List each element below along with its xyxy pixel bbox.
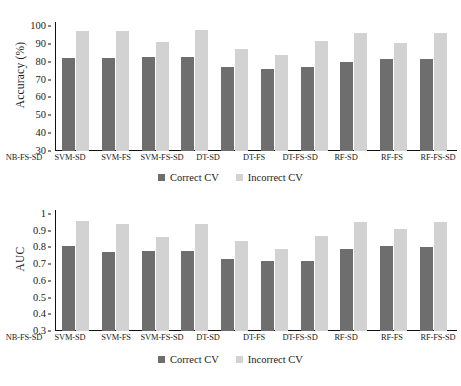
y-tick-label: 0.8 [33, 242, 46, 252]
bar-group [294, 214, 334, 331]
bar-group [215, 26, 255, 151]
bar-group [96, 214, 136, 331]
y-tick-mark [48, 230, 51, 231]
x-tick-label: SVM-FS-SD [139, 153, 185, 163]
legend-swatch-icon [236, 174, 243, 181]
bar-incorrect-cv [116, 31, 129, 151]
bar-group [255, 26, 295, 151]
y-tick-mark [48, 133, 51, 134]
x-tick-label: SVM-FS-SD [139, 333, 185, 343]
y-tick-label: 50 [36, 110, 47, 120]
chart-accuracy: Accuracy (%) 30405060708090100 NB-FS-SDS… [0, 6, 461, 192]
bar-groups-auc [56, 214, 453, 331]
x-tick-label: SVM-FS [93, 153, 139, 163]
x-tick-label: DT-FS [231, 153, 277, 163]
bar-incorrect-cv [354, 33, 367, 151]
x-tick-label: RF-FS [369, 333, 415, 343]
x-tick-label: SVM-SD [47, 333, 93, 343]
y-tick-mark [48, 314, 51, 315]
bar-incorrect-cv [275, 249, 288, 331]
bar-correct-cv [142, 57, 155, 151]
legend-label: Correct CV [170, 354, 219, 365]
bar-group [413, 26, 453, 151]
bar-group [96, 26, 136, 151]
y-tick-label: 80 [36, 57, 47, 67]
bar-incorrect-cv [76, 31, 89, 151]
bar-incorrect-cv [434, 222, 447, 331]
bar-correct-cv [62, 246, 75, 331]
bar-group [255, 214, 295, 331]
bar-correct-cv [181, 251, 194, 331]
y-tick-mark [48, 61, 51, 62]
legend-accuracy: Correct CVIncorrect CV [0, 172, 461, 183]
y-tick-label: 70 [36, 75, 47, 85]
bar-incorrect-cv [195, 224, 208, 331]
x-axis-labels-auc: NB-FS-SDSVM-SDSVM-FSSVM-FS-SDDT-SDDT-FSD… [1, 333, 461, 343]
bar-correct-cv [420, 59, 433, 151]
bar-incorrect-cv [156, 42, 169, 151]
x-tick-label: DT-FS-SD [277, 333, 323, 343]
bar-correct-cv [142, 251, 155, 331]
bar-incorrect-cv [156, 237, 169, 331]
bar-group [294, 26, 334, 151]
y-tick-mark [48, 331, 51, 332]
y-axis-ticks-accuracy: 30405060708090100 [3, 26, 51, 151]
legend-label: Incorrect CV [248, 172, 303, 183]
y-tick-label: 0.4 [33, 309, 46, 319]
bar-correct-cv [301, 67, 314, 151]
bar-group [334, 26, 374, 151]
bar-incorrect-cv [195, 30, 208, 151]
y-tick-label: 0.5 [33, 293, 46, 303]
bar-group [413, 214, 453, 331]
plot-area-accuracy: 30405060708090100 [55, 26, 453, 151]
bar-incorrect-cv [394, 229, 407, 331]
y-tick-mark [48, 97, 51, 98]
bar-incorrect-cv [235, 241, 248, 331]
x-tick-label: DT-FS [231, 333, 277, 343]
bar-incorrect-cv [394, 43, 407, 151]
y-tick-label: 0.9 [33, 226, 46, 236]
y-tick-mark [48, 280, 51, 281]
bar-group [175, 214, 215, 331]
legend-swatch-icon [236, 356, 243, 363]
y-tick-label: 90 [36, 39, 47, 49]
y-tick-mark [48, 214, 51, 215]
y-tick-mark [48, 43, 51, 44]
legend-auc: Correct CVIncorrect CV [0, 354, 461, 365]
bar-incorrect-cv [315, 236, 328, 331]
bar-incorrect-cv [354, 222, 367, 331]
bar-correct-cv [221, 67, 234, 151]
bar-correct-cv [181, 57, 194, 151]
bar-group [135, 214, 175, 331]
legend-swatch-icon [158, 174, 165, 181]
bar-correct-cv [380, 246, 393, 331]
x-tick-label: RF-FS-SD [415, 333, 461, 343]
x-tick-label: RF-FS-SD [415, 153, 461, 163]
y-tick-mark [48, 264, 51, 265]
bar-group [215, 214, 255, 331]
y-tick-mark [48, 247, 51, 248]
y-tick-mark [48, 297, 51, 298]
x-axis-labels-accuracy: NB-FS-SDSVM-SDSVM-FSSVM-FS-SDDT-SDDT-FSD… [1, 153, 461, 163]
figure-bar-charts: Accuracy (%) 30405060708090100 NB-FS-SDS… [0, 0, 461, 386]
legend-label: Incorrect CV [248, 354, 303, 365]
bar-correct-cv [261, 69, 274, 151]
y-tick-label: 0.6 [33, 276, 46, 286]
bar-group [175, 26, 215, 151]
bar-correct-cv [420, 247, 433, 331]
x-tick-label: SVM-FS [93, 333, 139, 343]
y-tick-label: 60 [36, 92, 47, 102]
bar-group [56, 26, 96, 151]
bar-correct-cv [221, 259, 234, 331]
legend-label: Correct CV [170, 172, 219, 183]
x-tick-label: DT-SD [185, 333, 231, 343]
x-tick-label: RF-FS [369, 153, 415, 163]
bar-incorrect-cv [275, 55, 288, 151]
x-tick-label: NB-FS-SD [1, 333, 47, 343]
bar-group [334, 214, 374, 331]
bar-correct-cv [340, 249, 353, 331]
y-tick-label: 100 [30, 21, 46, 31]
y-tick-label: 0.7 [33, 259, 46, 269]
x-tick-label: RF-SD [323, 153, 369, 163]
chart-auc: AUC 0.30.40.50.60.70.80.91 NB-FS-SDSVM-S… [0, 196, 461, 386]
